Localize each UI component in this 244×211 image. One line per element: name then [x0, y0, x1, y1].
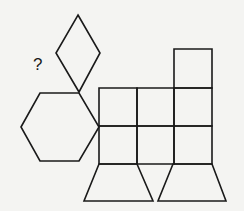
right-trapezoid-shape — [158, 164, 226, 201]
grid-square-r1c3 — [174, 88, 212, 126]
question-mark-label: ? — [33, 56, 42, 73]
grid-square-r2c3 — [174, 126, 212, 164]
figure-drawing — [0, 0, 244, 211]
grid-square-r1c1 — [99, 88, 137, 126]
grid-square-r2c2 — [137, 126, 174, 164]
grid-square-r2c1 — [99, 126, 137, 164]
puzzle-figure: ? — [0, 0, 244, 211]
rhombus-shape — [56, 15, 100, 92]
left-trapezoid-shape — [84, 164, 153, 201]
hexagon-shape — [21, 93, 99, 161]
tower-square — [174, 49, 212, 88]
grid-square-r1c2 — [137, 88, 174, 126]
